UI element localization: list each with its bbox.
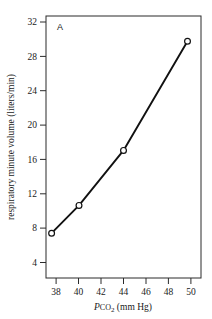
panel-label: A [57,22,63,32]
y-axis-title: respiratory minute volume (liters/min) [6,74,17,220]
y-tick-label: 16 [28,155,38,165]
x-tick-label: 38 [51,287,61,297]
data-point-marker [121,148,127,154]
data-point-markers [49,38,191,236]
x-axis-ticks [56,278,191,284]
x-axis-tick-labels: 38 40 42 44 46 48 50 [51,287,196,297]
y-tick-label: 32 [28,17,38,27]
y-tick-label: 24 [28,86,38,96]
x-tick-label: 44 [119,287,129,297]
y-tick-label: 20 [28,120,38,130]
data-point-marker [76,203,82,209]
data-point-marker [185,38,191,44]
data-series-line [52,41,188,233]
x-tick-label: 42 [96,287,106,297]
line-chart: 32 28 24 20 16 12 8 4 38 40 42 44 46 48 [0,0,212,319]
x-axis-title: PCO2 (mm Hg) [93,302,152,314]
x-tick-label: 48 [164,287,174,297]
x-axis-title-co: CO [100,303,111,312]
x-tick-label: 46 [141,287,151,297]
y-axis-ticks [40,22,46,263]
y-tick-label: 28 [28,52,38,62]
y-tick-label: 4 [32,258,37,268]
figure-panel-a: 32 28 24 20 16 12 8 4 38 40 42 44 46 48 [0,0,212,319]
x-tick-label: 50 [186,287,196,297]
x-axis-title-units: (mm Hg) [117,302,152,313]
y-tick-label: 8 [32,223,37,233]
y-tick-label: 12 [28,189,38,199]
data-point-marker [49,230,55,236]
x-tick-label: 40 [74,287,84,297]
y-axis-tick-labels: 32 28 24 20 16 12 8 4 [28,17,38,267]
